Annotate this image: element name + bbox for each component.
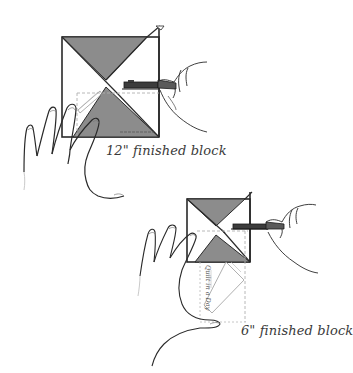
large-block-panel [24,26,207,198]
small-right-hand-icon [266,204,318,273]
large-right-hand-icon [158,62,207,132]
large-block-caption: 12" finished block [106,143,227,158]
small-block-panel: Quilt in a Day [138,192,318,366]
small-block-caption: 6" finished block [241,323,353,338]
